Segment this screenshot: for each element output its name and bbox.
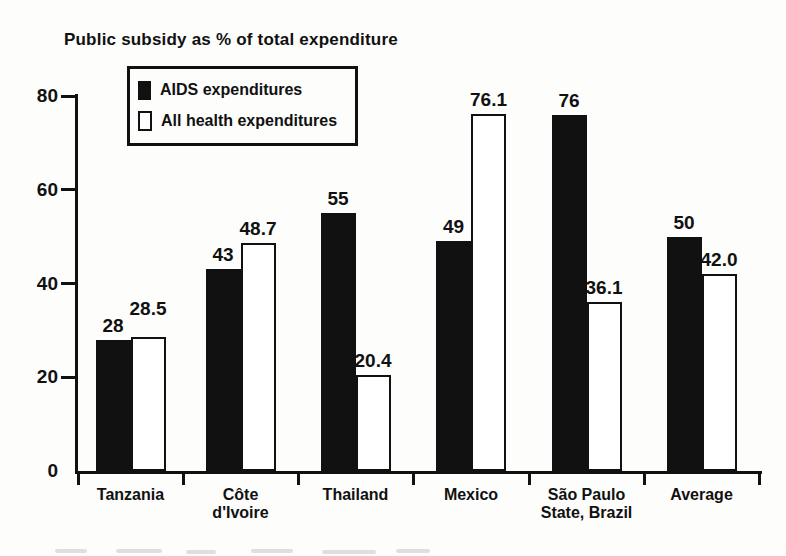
plot-area: 0204060802828.5Tanzania4348.7Côte d'Ivoi… <box>0 0 786 556</box>
bar-health-5 <box>587 302 622 471</box>
value-label: 50 <box>644 213 724 233</box>
scan-artifact-dash <box>116 549 162 553</box>
x-axis-line <box>75 471 762 474</box>
y-axis-label: 80 <box>18 86 58 106</box>
x-tick-mark <box>182 474 185 485</box>
y-axis-line <box>75 94 78 474</box>
y-tick-mark <box>61 188 75 191</box>
value-label: 28.5 <box>108 299 188 319</box>
x-tick-mark <box>297 474 300 485</box>
x-axis-label: Tanzania <box>72 486 190 504</box>
bar-aids-2 <box>206 269 241 471</box>
x-tick-mark <box>77 474 80 485</box>
bar-health-4 <box>471 114 506 471</box>
x-tick-mark <box>528 474 531 485</box>
value-label: 42.0 <box>679 250 759 270</box>
scan-artifact-dash <box>55 549 87 553</box>
x-tick-mark <box>412 474 415 485</box>
x-tick-mark <box>758 474 761 485</box>
bar-health-6 <box>702 274 737 471</box>
y-tick-mark <box>61 376 75 379</box>
x-axis-label: São Paulo State, Brazil <box>528 486 646 521</box>
value-label: 76 <box>529 91 609 111</box>
scan-artifact-dash <box>251 549 293 553</box>
value-label: 36.1 <box>564 278 644 298</box>
bar-aids-4 <box>436 241 471 471</box>
value-label: 20.4 <box>333 351 413 371</box>
bar-aids-1 <box>96 340 131 471</box>
x-axis-label: Mexico <box>412 486 530 504</box>
y-tick-mark <box>61 95 75 98</box>
bar-aids-3 <box>321 213 356 471</box>
value-label: 48.7 <box>218 219 298 239</box>
value-label: 55 <box>298 189 378 209</box>
scan-artifact-dash <box>396 549 430 553</box>
y-axis-label: 40 <box>18 274 58 294</box>
bar-aids-6 <box>667 237 702 471</box>
scan-artifact-dash <box>322 550 376 554</box>
bar-health-1 <box>131 337 166 471</box>
x-tick-mark <box>643 474 646 485</box>
figure-page: Public subsidy as % of total expenditure… <box>0 0 786 556</box>
y-axis-label: 60 <box>18 180 58 200</box>
value-label: 76.1 <box>449 90 529 110</box>
x-axis-label: Average <box>643 486 761 504</box>
y-axis-label: 0 <box>18 461 58 481</box>
bar-health-3 <box>356 375 391 471</box>
bar-health-2 <box>241 243 276 471</box>
y-axis-label: 20 <box>18 367 58 387</box>
y-tick-mark <box>61 282 75 285</box>
scan-artifact-dash <box>186 550 216 554</box>
x-axis-label: Côte d'Ivoire <box>182 486 300 521</box>
x-axis-label: Thailand <box>297 486 415 504</box>
